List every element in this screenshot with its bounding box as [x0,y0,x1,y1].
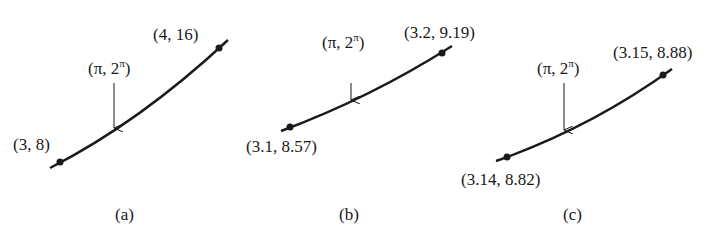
right-point-b [439,50,446,57]
curve-b [281,46,452,131]
caption-c: (c) [563,205,582,224]
left-point-b [287,124,294,131]
point-label-b: (π, 2π) [322,31,364,52]
curve-c [496,69,672,161]
left-label-c: (3.14, 8.82) [461,170,540,189]
point-label-a: (π, 2π) [88,57,130,78]
caption-b: (b) [339,205,359,224]
right-point-c [660,72,667,79]
figure-canvas: (π, 2π) (4, 16) (3, 8) (a) (π, 2π) (3.2,… [0,0,726,243]
right-label-a: (4, 16) [153,25,198,44]
curve-a [50,40,228,168]
left-point-c [504,154,511,161]
left-point-a [57,159,64,166]
left-label-a: (3, 8) [13,135,50,154]
caption-a: (a) [115,205,134,224]
point-label-c: (π, 2π) [537,57,579,78]
right-point-a [216,45,223,52]
panel-c: (π, 2π) (3.15, 8.88) (3.14, 8.82) (c) [461,43,692,224]
panel-a: (π, 2π) (4, 16) (3, 8) (a) [13,25,228,224]
panel-b: (π, 2π) (3.2, 9.19) (3.1, 8.57) (b) [246,23,475,224]
left-label-b: (3.1, 8.57) [246,137,317,156]
right-label-c: (3.15, 8.88) [613,43,692,62]
right-label-b: (3.2, 9.19) [404,23,475,42]
